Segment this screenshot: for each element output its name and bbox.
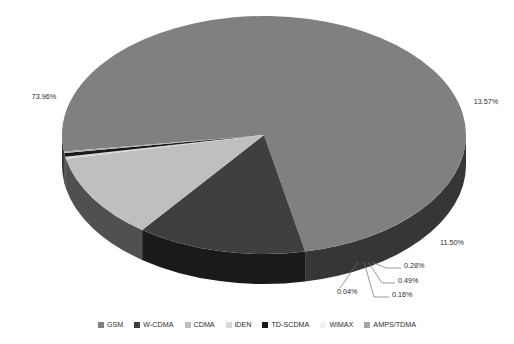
pie-label-13-57: 13.57% (474, 97, 499, 106)
legend-item-w-cdma[interactable]: W-CDMA (134, 321, 173, 328)
legend-item-gsm[interactable]: GSM (98, 321, 123, 328)
legend-item-amps-tdma[interactable]: AMPS/TDMA (364, 321, 416, 328)
pie-label-0-04: 0.04% (337, 287, 358, 296)
legend-label: AMPS/TDMA (373, 321, 416, 328)
pie-label-0-28: 0.28% (404, 261, 425, 270)
legend-swatch-icon (226, 322, 232, 328)
pie-label-0-49: 0.49% (398, 276, 419, 285)
leader-line-amps-tdma (364, 262, 389, 297)
legend-label: CDMA (194, 321, 215, 328)
pie-slice-side-td-scdma (64, 153, 65, 187)
legend-swatch-icon (262, 322, 268, 328)
pie-label-11-50: 11.50% (440, 238, 464, 247)
legend-label: TD-SCDMA (271, 321, 309, 328)
legend-swatch-icon (98, 322, 104, 328)
legend-item-cdma[interactable]: CDMA (185, 321, 215, 328)
legend-label: GSM (107, 321, 123, 328)
pie-chart-figure: 73.96%13.57%11.50%0.28%0.49%0.16%0.04% (0, 0, 514, 344)
legend-item-iden[interactable]: iDEN (226, 321, 252, 328)
legend-label: WiMAX (329, 321, 353, 328)
legend-item-wimax[interactable]: WiMAX (320, 321, 353, 328)
legend-swatch-icon (320, 322, 326, 328)
legend-label: W-CDMA (143, 321, 173, 328)
pie-top-faces (62, 16, 466, 254)
legend-swatch-icon (364, 322, 370, 328)
legend-label: iDEN (235, 321, 252, 328)
chart-legend: GSMW-CDMACDMAiDENTD-SCDMAWiMAXAMPS/TDMA (0, 321, 514, 328)
pie-chart-page: 73.96%13.57%11.50%0.28%0.49%0.16%0.04% G… (0, 0, 514, 344)
pie-label-73-96: 73.96% (32, 92, 57, 101)
legend-item-td-scdma[interactable]: TD-SCDMA (262, 321, 309, 328)
legend-swatch-icon (185, 322, 191, 328)
pie-slice-side-iden (65, 157, 66, 189)
legend-swatch-icon (134, 322, 140, 328)
pie-label-0-16: 0.16% (392, 290, 413, 299)
